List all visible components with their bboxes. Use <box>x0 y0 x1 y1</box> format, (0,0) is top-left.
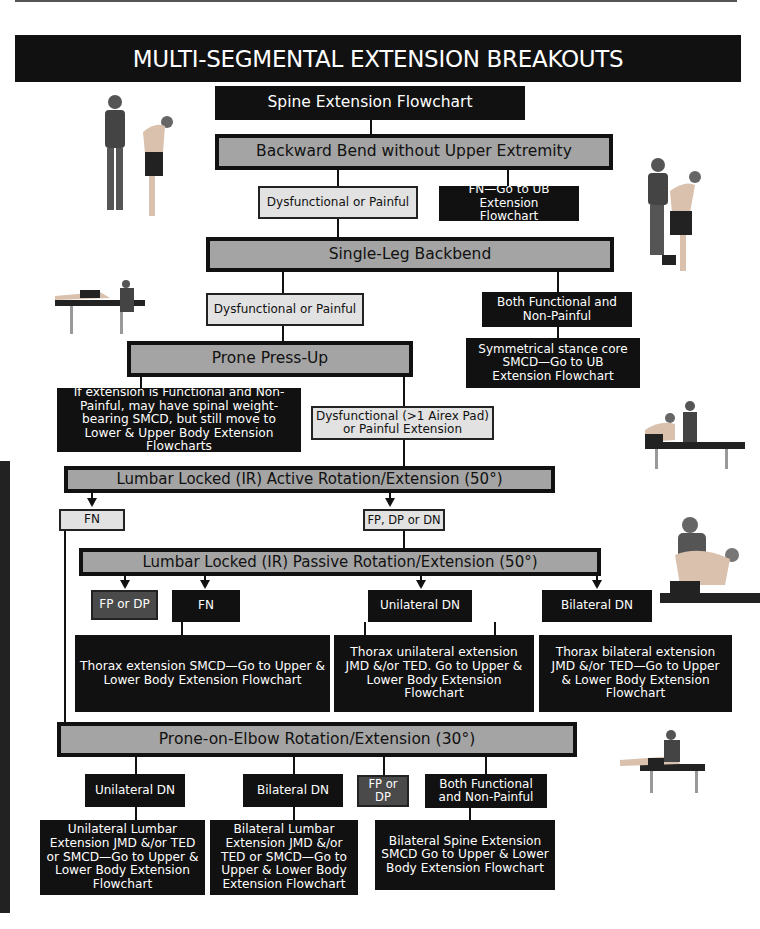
connector <box>282 326 284 342</box>
connector <box>181 622 183 636</box>
arrow-down-icon <box>592 580 602 589</box>
connector <box>403 531 405 549</box>
single-leg-node: Single-Leg Backbend <box>206 237 614 272</box>
connector <box>282 272 284 294</box>
photo-single-leg-backbend <box>640 155 710 275</box>
passive-rotation-uni-result: Thorax unilateral extension JMD &/or TED… <box>334 635 534 712</box>
arrow-down-icon <box>385 498 395 507</box>
active-rotation-other: FP, DP or DN <box>363 509 445 531</box>
connector <box>494 622 496 636</box>
prone-elbow-uni: Unilateral DN <box>85 774 185 807</box>
connector <box>403 440 405 467</box>
connector <box>135 757 137 775</box>
single-leg-fn-result: Symmetrical stance core SMCD—Go to UB Ex… <box>466 338 640 388</box>
photo-backward-bend <box>95 92 180 227</box>
prone-elbow-fn: Both Functional and Non-Painful <box>425 774 547 808</box>
prone-elbow-fpdp: FP or DP <box>357 775 409 807</box>
backward-bend-fn: FN—Go to UB Extension Flowchart <box>439 186 579 221</box>
passive-rotation-node: Lumbar Locked (IR) Passive Rotation/Exte… <box>79 548 601 576</box>
connector <box>403 377 405 407</box>
connector <box>383 757 385 775</box>
passive-rotation-fn-result: Thorax extension SMCD—Go to Upper & Lowe… <box>75 635 330 712</box>
single-leg-dp: Dysfunctional or Painful <box>206 293 364 326</box>
prone-elbow-fn-result: Bilateral Spine Extension SMCD Go to Upp… <box>375 820 555 890</box>
passive-rotation-bi: Bilateral DN <box>542 590 652 622</box>
photo-prone-on-elbow <box>620 730 710 795</box>
connector <box>337 170 339 187</box>
photo-active-rotation <box>635 400 750 470</box>
prone-press-up-node: Prone Press-Up <box>127 341 413 377</box>
connector <box>293 757 295 775</box>
start-node: Spine Extension Flowchart <box>215 86 525 120</box>
backward-bend-dp: Dysfunctional or Painful <box>258 186 418 219</box>
arrow-down-icon <box>87 498 97 507</box>
connector <box>64 531 66 749</box>
connector <box>337 219 339 238</box>
page-title: MULTI-SEGMENTAL EXTENSION BREAKOUTS <box>15 35 741 82</box>
connector <box>485 757 487 775</box>
top-rule <box>15 0 737 2</box>
active-rotation-fn: FN <box>59 509 125 531</box>
passive-rotation-fn: FN <box>172 590 240 622</box>
photo-passive-rotation <box>660 515 760 615</box>
prone-elbow-bi: Bilateral DN <box>243 774 343 807</box>
prone-press-dp: Dysfunctional (>1 Airex Pad) or Painful … <box>311 406 494 440</box>
backward-bend-node: Backward Bend without Upper Extremity <box>215 134 613 170</box>
prone-elbow-node: Prone-on-Elbow Rotation/Extension (30°) <box>57 722 577 757</box>
connector <box>557 272 559 292</box>
arrow-down-icon <box>416 580 426 589</box>
prone-press-fn-note: If extension is Functional and Non-Painf… <box>57 388 301 452</box>
connector <box>293 807 295 821</box>
connector <box>370 120 372 135</box>
prone-elbow-uni-result: Unilateral Lumbar Extension JMD &/or TED… <box>40 820 205 895</box>
side-tab <box>0 461 10 913</box>
passive-rotation-uni: Unilateral DN <box>368 590 472 622</box>
passive-rotation-bi-result: Thorax bilateral extension JMD &/or TED—… <box>539 635 732 712</box>
connector <box>364 622 366 636</box>
passive-rotation-fpdp: FP or DP <box>91 590 158 620</box>
active-rotation-node: Lumbar Locked (IR) Active Rotation/Exten… <box>64 466 555 493</box>
connector <box>135 807 137 821</box>
prone-elbow-bi-result: Bilateral Lumbar Extension JMD &/or TED … <box>210 820 358 895</box>
single-leg-fn: Both Functional and Non-Painful <box>482 292 632 327</box>
arrow-down-icon <box>120 580 130 589</box>
arrow-down-icon <box>200 580 210 589</box>
photo-prone-press-up <box>50 280 150 340</box>
